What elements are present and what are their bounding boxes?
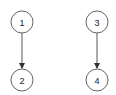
- node-label: 2: [19, 76, 24, 86]
- node-label: 3: [94, 18, 99, 28]
- graph-canvas: 1 2 3 4: [0, 0, 116, 95]
- node-label: 1: [19, 18, 24, 28]
- node-2: 2: [11, 69, 33, 91]
- node-4: 4: [86, 69, 108, 91]
- node-3: 3: [86, 11, 108, 33]
- node-1: 1: [11, 11, 33, 33]
- node-label: 4: [94, 76, 99, 86]
